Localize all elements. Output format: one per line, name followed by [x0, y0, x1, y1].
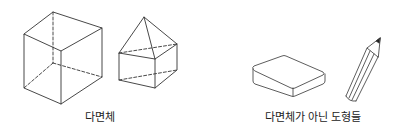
eraser-figure: [253, 56, 325, 97]
polyhedra-label: 다면체: [85, 108, 115, 124]
house-figure: [119, 17, 177, 88]
cube-figure: [24, 12, 102, 104]
cube-visible-edges: [24, 12, 102, 104]
pencil-figure: [346, 38, 380, 101]
house-visible-edges: [119, 17, 177, 88]
non-polyhedra-label: 다면체가 아닌 도형들: [265, 108, 362, 124]
